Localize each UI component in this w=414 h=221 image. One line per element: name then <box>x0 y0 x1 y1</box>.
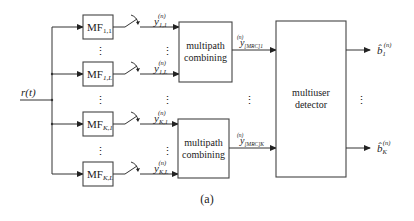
figure-caption: (a) <box>200 192 213 206</box>
junction-dot <box>51 99 53 101</box>
svg-text:detector: detector <box>295 99 328 110</box>
multiuser-detector: multiuser detector <box>276 21 346 177</box>
sample-label-K-1: yK,1(n) <box>153 109 168 125</box>
matched-filter-mf-1-1: MF1,1 <box>83 15 113 39</box>
ellipsis-icon: ⋮ <box>162 45 173 57</box>
sample-label-K-L: yK,L(n) <box>153 159 169 175</box>
matched-filter-mf-1-L: MF1,L <box>83 62 113 86</box>
ellipsis-icon: ⋮ <box>162 145 173 157</box>
ellipsis-icon: ⋮ <box>95 145 106 157</box>
block-diagram: r(t) MF1,1 MF1,L MFK,1 MFK,L ⋮ ⋮ ⋮ <box>0 0 414 221</box>
input-signal: r(t) <box>20 86 52 100</box>
ellipsis-icon: ⋮ <box>95 94 106 106</box>
sample-label-1-1: y1,1(n) <box>153 12 167 28</box>
ellipsis-icon: ⋮ <box>162 94 173 106</box>
matched-filter-mf-K-1: MFK,1 <box>83 112 113 136</box>
svg-text:multipath: multipath <box>184 137 222 148</box>
svg-text:multiuser: multiuser <box>292 87 330 98</box>
sample-label-1-L: y1,L(n) <box>153 59 168 75</box>
decision-label-K: b̂K(n) <box>377 139 390 155</box>
decision-label-1: b̂1(n) <box>377 41 391 57</box>
sampler-switch-3 <box>113 112 178 124</box>
input-label: r(t) <box>21 86 36 99</box>
svg-text:combining: combining <box>182 149 225 160</box>
svg-text:multipath: multipath <box>186 40 224 51</box>
ellipsis-icon: ⋮ <box>244 94 255 106</box>
matched-filter-mf-K-L: MFK,L <box>83 162 113 186</box>
mrc-label-1: y[MRC]1(n) <box>237 34 263 49</box>
mrc-label-K: y[MRC]K(n) <box>237 132 264 147</box>
sampler-switch-2 <box>113 62 179 74</box>
multipath-combiner-K: multipath combining <box>178 119 229 178</box>
ellipsis-icon: ⋮ <box>95 45 106 57</box>
ellipsis-icon: ⋮ <box>356 94 367 106</box>
multipath-combiner-1: multipath combining <box>179 22 232 82</box>
sampler-switch-1 <box>113 15 179 27</box>
svg-text:combining: combining <box>184 52 227 63</box>
